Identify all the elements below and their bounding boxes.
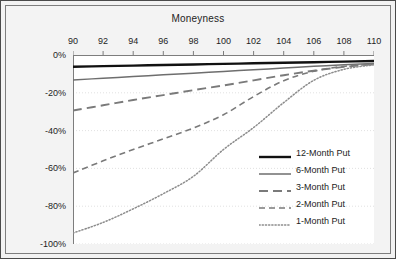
- x-tick-label: 110: [367, 36, 381, 46]
- x-tick-label: 104: [276, 36, 291, 46]
- legend-item[interactable]: 12-Month Put: [259, 144, 379, 161]
- legend-label: 2-Month Put: [296, 199, 345, 209]
- legend-swatch-solid-thick-icon: [259, 148, 291, 158]
- chart-figure: Moneyness Monthly Return 909294969810010…: [0, 0, 396, 259]
- legend-label: 3-Month Put: [296, 182, 345, 192]
- y-tick-label: -80%: [45, 201, 66, 211]
- x-tick-label: 94: [128, 36, 138, 46]
- x-tick-label: 108: [336, 36, 351, 46]
- x-tick-label: 98: [188, 36, 198, 46]
- x-tick-label: 102: [246, 36, 261, 46]
- chart-inner-frame: Moneyness Monthly Return 909294969810010…: [5, 5, 391, 254]
- legend-swatch-medium-dash-icon: [259, 199, 291, 209]
- legend-swatch-dotted-icon: [259, 216, 291, 226]
- y-tick-label: -100%: [40, 239, 66, 249]
- y-tick-label: -20%: [45, 88, 66, 98]
- legend-item[interactable]: 1-Month Put: [259, 212, 379, 229]
- legend-label: 1-Month Put: [296, 216, 345, 226]
- legend-item[interactable]: 2-Month Put: [259, 195, 379, 212]
- y-tick-label: -40%: [45, 126, 66, 136]
- chart-title: Moneyness: [6, 13, 390, 24]
- legend-swatch-long-dash-icon: [259, 182, 291, 192]
- x-tick-label: 92: [98, 36, 108, 46]
- legend-label: 6-Month Put: [296, 165, 345, 175]
- legend-item[interactable]: 3-Month Put: [259, 178, 379, 195]
- x-tick-label: 100: [216, 36, 231, 46]
- legend-swatch-solid-thin-icon: [259, 165, 291, 175]
- legend-label: 12-Month Put: [296, 148, 350, 158]
- x-tick-label: 90: [68, 36, 78, 46]
- y-tick-label: -60%: [45, 163, 66, 173]
- x-tick-label: 106: [306, 36, 321, 46]
- legend-item[interactable]: 6-Month Put: [259, 161, 379, 178]
- y-tick-label: 0%: [53, 50, 66, 60]
- x-tick-label: 96: [158, 36, 168, 46]
- chart-legend: 12-Month Put6-Month Put3-Month Put2-Mont…: [259, 144, 379, 229]
